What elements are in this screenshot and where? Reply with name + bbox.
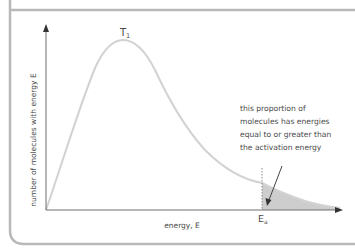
ea-label: Ea bbox=[258, 213, 268, 225]
annotation-line: molecules has energies bbox=[240, 117, 330, 126]
y-axis bbox=[43, 24, 49, 210]
y-axis-label: number of molecules with energy E bbox=[29, 73, 38, 207]
curve-label-t1: T1 bbox=[119, 27, 130, 40]
diagram-frame: T1 number of molecules with energy E ene… bbox=[0, 0, 355, 252]
annotation-line: equal to or greater than bbox=[240, 130, 331, 139]
x-axis-label: energy, E bbox=[164, 221, 200, 230]
y-axis-arrowhead-icon bbox=[43, 24, 49, 32]
annotation-line: this proportion of bbox=[240, 104, 306, 113]
annotation-text: this proportion of molecules has energie… bbox=[240, 104, 331, 152]
annotation-line: the activation energy bbox=[240, 143, 322, 152]
